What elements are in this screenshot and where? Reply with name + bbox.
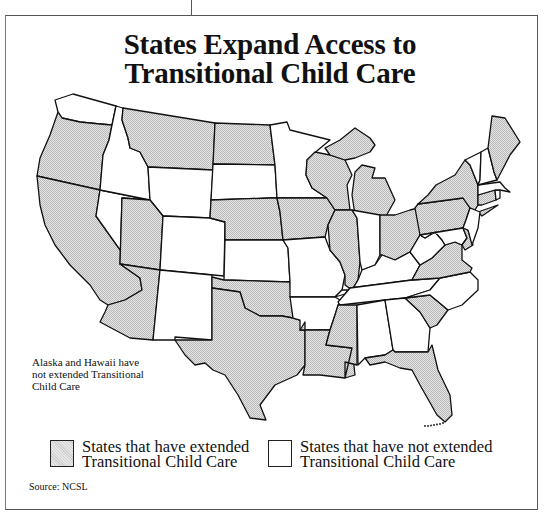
legend-swatch-not-extended	[268, 440, 292, 467]
florida-keys	[424, 422, 444, 427]
legend-not-extended-line-2: Transitional Child Care	[300, 454, 492, 469]
note-line-1: Alaska and Hawaii have	[32, 356, 162, 368]
state-ks	[224, 240, 290, 282]
state-mi-upper	[325, 128, 375, 160]
state-ri	[495, 190, 500, 200]
legend-extended: States that have extended Transitional C…	[50, 439, 249, 469]
state-ut	[120, 198, 163, 270]
state-ny-li	[478, 205, 498, 216]
state-nd	[213, 123, 275, 165]
note-line-2: not extended Transitional	[32, 368, 162, 380]
state-co	[160, 216, 225, 276]
state-fl	[365, 345, 452, 422]
state-ia	[277, 198, 335, 240]
legend-not-extended: States that have not extended Transition…	[268, 439, 492, 469]
legend-label-extended: States that have extended Transitional C…	[82, 439, 249, 469]
alaska-hawaii-note: Alaska and Hawaii have not extended Tran…	[32, 356, 162, 392]
state-nm	[153, 270, 212, 340]
legend-extended-line-2: Transitional Child Care	[82, 454, 249, 469]
state-sd	[211, 164, 277, 200]
source-note: Source: NCSL	[29, 481, 88, 492]
legend-swatch-extended	[50, 440, 74, 467]
legend-label-not-extended: States that have not extended Transition…	[300, 439, 492, 469]
note-line-3: Child Care	[32, 380, 162, 392]
